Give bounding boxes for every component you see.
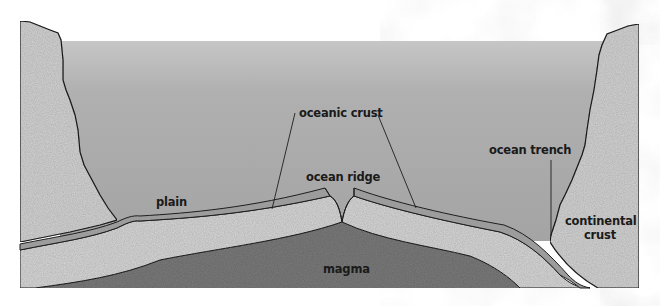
- bottom-edge: [0, 288, 380, 306]
- label-ocean-trench: ocean trench: [489, 143, 571, 157]
- label-continental-crust: continental crust: [565, 214, 635, 242]
- label-plain: plain: [156, 195, 187, 209]
- label-magma: magma: [323, 262, 370, 276]
- label-continental-crust-line2: crust: [565, 228, 635, 242]
- label-continental-crust-line1: continental: [565, 214, 635, 228]
- label-ocean-ridge: ocean ridge: [306, 170, 380, 184]
- label-oceanic-crust: oceanic crust: [299, 106, 383, 120]
